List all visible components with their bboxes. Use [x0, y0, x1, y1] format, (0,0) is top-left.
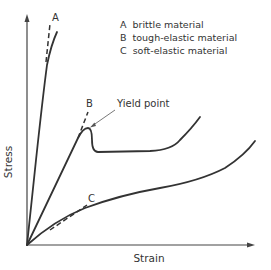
y-axis-title: Stress — [2, 146, 14, 178]
legend-item-c: C soft-elastic material — [120, 45, 227, 56]
label-b: B — [86, 98, 93, 109]
tangent-b — [78, 112, 88, 138]
legend: A brittle material B tough-elastic mater… — [120, 19, 237, 56]
yield-point-arrow-icon — [90, 123, 96, 128]
yield-point-pointer — [92, 110, 115, 126]
y-axis-arrow-icon — [25, 14, 30, 22]
x-axis-title: Strain — [133, 252, 164, 264]
series-b: B Yield point — [27, 98, 200, 245]
yield-point-label: Yield point — [116, 98, 170, 109]
stress-strain-chart: Stress Strain A B Yield point C A brittl… — [0, 0, 271, 270]
legend-item-b: B tough-elastic material — [120, 32, 237, 43]
curve-c — [27, 141, 255, 245]
label-c: C — [88, 193, 95, 204]
series-c: C — [27, 141, 255, 245]
label-a: A — [52, 12, 59, 23]
legend-item-a: A brittle material — [120, 19, 204, 30]
x-axis-arrow-icon — [247, 243, 255, 248]
